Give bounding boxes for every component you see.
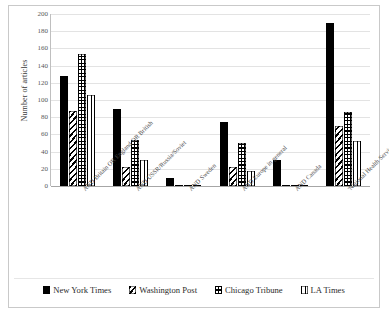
plot-area (50, 14, 370, 186)
y-axis-tick-label: 100 (38, 97, 49, 104)
x-axis-category-label: AND Britain OR England OR British (81, 187, 86, 192)
bar (273, 160, 281, 186)
bar (220, 122, 228, 186)
bar (344, 112, 352, 186)
x-axis-category-label: 'National Health Service' (346, 187, 351, 192)
y-axis-tick-label: 40 (41, 148, 48, 155)
legend-swatch-icon (129, 286, 136, 294)
bar-group (55, 14, 101, 186)
x-axis-category-label: AND Europe in general (240, 187, 245, 192)
legend-item[interactable]: Washington Post (129, 285, 197, 295)
legend-swatch-icon (43, 286, 50, 294)
legend-item[interactable]: LA Times (301, 285, 345, 295)
bar (69, 111, 77, 186)
y-axis-tick-labels: 020406080100120140160180200 (26, 14, 48, 186)
x-axis-category-label: AND Canada (293, 187, 298, 192)
legend-swatch-icon (215, 286, 222, 294)
y-axis-tick-label: 160 (38, 45, 49, 52)
bar (282, 185, 290, 187)
legend-item[interactable]: New York Times (43, 285, 111, 295)
legend-item[interactable]: Chicago Tribune (215, 285, 283, 295)
bar (238, 143, 246, 186)
y-axis-tick-label: 200 (38, 11, 49, 18)
bar (175, 185, 183, 187)
bar (60, 76, 68, 186)
bar (122, 167, 130, 186)
chart-legend: New York TimesWashington PostChicago Tri… (14, 278, 374, 301)
y-axis-tick-label: 80 (41, 114, 48, 121)
x-axis-category-labels: AND Britain OR England OR BritishAND USS… (50, 187, 370, 267)
y-axis-tick-label: 60 (41, 131, 48, 138)
legend-label: New York Times (53, 285, 111, 295)
x-axis-category-label: AND Sweden (187, 187, 192, 192)
y-axis-tick-label: 140 (38, 62, 49, 69)
bar (335, 126, 343, 186)
bar (326, 23, 334, 186)
y-axis-tick-label: 20 (41, 165, 48, 172)
bar (166, 178, 174, 186)
legend-label: Washington Post (139, 285, 197, 295)
y-axis-tick-label: 180 (38, 28, 49, 35)
grouped-bar-chart-figure: Number of articles 020406080100120140160… (0, 0, 389, 318)
bar-group (320, 14, 366, 186)
bar-group (214, 14, 260, 186)
bar (229, 167, 237, 186)
legend-label: Chicago Tribune (225, 285, 283, 295)
bar (131, 140, 139, 186)
legend-swatch-icon (301, 286, 308, 294)
bars-layer (51, 14, 370, 186)
y-axis-tick-label: 0 (45, 183, 49, 190)
y-axis-tick-label: 120 (38, 79, 49, 86)
legend-label: LA Times (311, 285, 345, 295)
bar (78, 54, 86, 186)
x-axis-category-label: AND USSR/Russia/Soviet (134, 187, 139, 192)
plot-wrapper: Number of articles 020406080100120140160… (0, 0, 389, 318)
